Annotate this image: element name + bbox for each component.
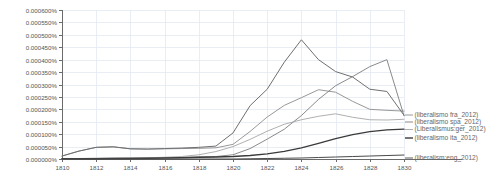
x-axis-tick-labels: 1810181218141816181818201822182418261828… <box>56 164 412 171</box>
y-tick-label: 0.000350% <box>26 69 58 76</box>
x-tick-label: 1812 <box>90 164 104 171</box>
y-tick-label: 0.000100% <box>26 131 58 138</box>
y-tick-label: 0.000550% <box>26 19 58 26</box>
y-tick-label: 0.000300% <box>26 82 58 89</box>
x-tick-label: 1828 <box>364 164 378 171</box>
y-tick-label: 0.000500% <box>26 32 58 39</box>
series-line-1 <box>62 60 404 159</box>
x-tick-label: 1826 <box>330 164 344 171</box>
series-line-5 <box>62 40 404 156</box>
y-tick-label: 0.000050% <box>26 144 58 151</box>
legend: (liberalismo fra_2012)(liberalismo spa_2… <box>405 111 486 162</box>
legend-label-2[interactable]: (Liberalismus:ger_2012) <box>415 125 486 133</box>
y-tick-label: 0.000400% <box>26 57 58 64</box>
x-tick-label: 1810 <box>56 164 70 171</box>
x-tick-label: 1816 <box>159 164 173 171</box>
x-tick-label: 1820 <box>227 164 241 171</box>
series-line-2 <box>62 114 404 159</box>
grid-lines <box>62 10 405 159</box>
y-tick-marks <box>59 11 62 160</box>
ngram-chart-container: 0.000000%0.000050%0.000100%0.000150%0.00… <box>0 0 496 184</box>
x-tick-label: 1818 <box>193 164 207 171</box>
legend-label-4[interactable]: (liberalism:eng_2012) <box>415 154 478 162</box>
y-tick-label: 0.000150% <box>26 119 58 126</box>
y-tick-label: 0.000250% <box>26 94 58 101</box>
y-tick-label: 0.000450% <box>26 44 58 51</box>
x-tick-label: 1814 <box>124 164 138 171</box>
axes <box>62 10 462 160</box>
y-tick-label: 0.000200% <box>26 106 58 113</box>
y-tick-label: 0.000600% <box>26 7 58 14</box>
data-series-group <box>62 40 404 159</box>
y-axis-tick-labels: 0.000000%0.000050%0.000100%0.000150%0.00… <box>26 7 58 163</box>
line-chart: 0.000000%0.000050%0.000100%0.000150%0.00… <box>0 0 496 184</box>
x-tick-label: 1830 <box>398 164 412 171</box>
legend-label-3[interactable]: (liberalismo ita_2012) <box>415 134 478 142</box>
y-tick-label: 0.000000% <box>26 156 58 163</box>
series-line-0 <box>62 90 404 156</box>
x-tick-label: 1822 <box>261 164 275 171</box>
x-tick-label: 1824 <box>295 164 309 171</box>
